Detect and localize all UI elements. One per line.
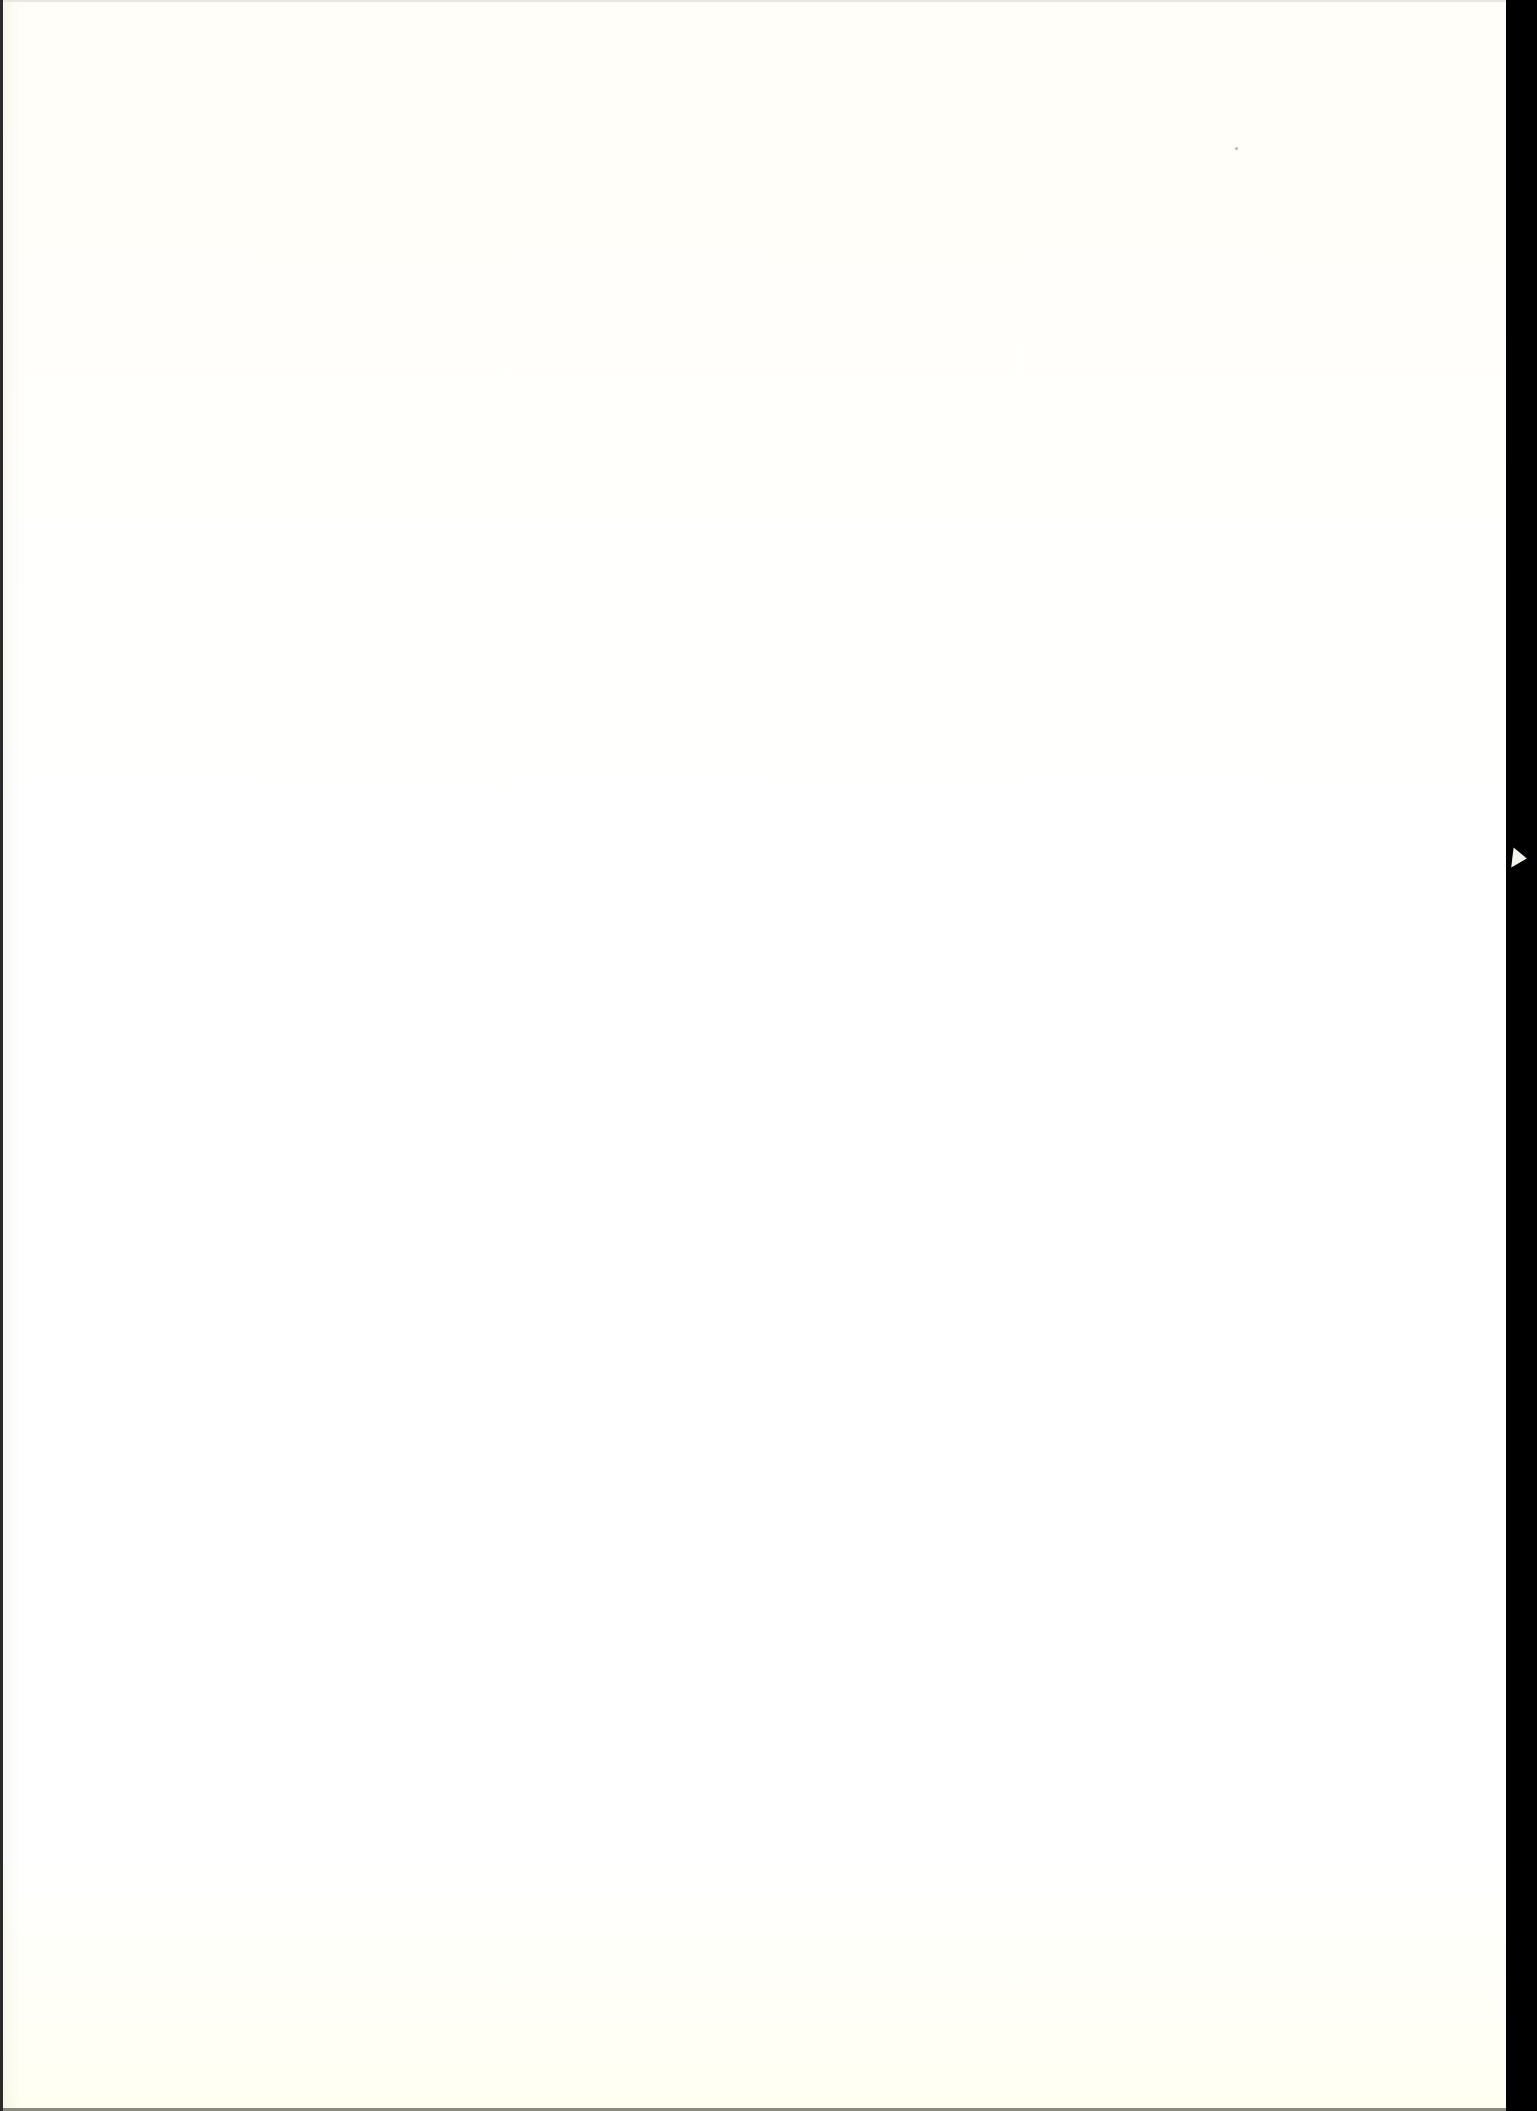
dust-speck — [1235, 147, 1238, 150]
scanned-page — [0, 0, 1537, 2111]
top-paper-edge — [3, 0, 1506, 2]
right-scan-border — [1506, 0, 1537, 2111]
blank-paper-sheet — [3, 0, 1506, 2108]
